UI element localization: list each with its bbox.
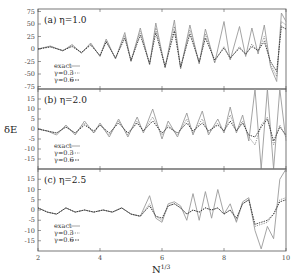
y-tick-label: -75	[25, 83, 35, 91]
three-panel-line-chart: 7550250-25-50-75 (a) η=1.0 exact γ=0.3 γ…	[0, 0, 296, 279]
panel-c-legend: exact γ=0.3 γ=0.6	[54, 222, 80, 244]
panel-a: 7550250-25-50-75 (a) η=1.0 exact γ=0.3 γ…	[25, 8, 286, 91]
series-03-line	[38, 22, 286, 77]
y-tick-label: -10	[25, 145, 35, 153]
y-tick-label: 5	[31, 196, 35, 204]
y-tick-label: 0	[31, 125, 35, 133]
panel-c: 151050-5-10-15 (c) η=2.5 exact γ=0.3 γ=0…	[25, 169, 286, 251]
y-tick-label: 25	[27, 33, 35, 41]
y-tick-label: 75	[27, 8, 35, 16]
x-tick-8: 8	[222, 254, 226, 262]
panel-a-label: (a) η=1.0	[44, 15, 87, 25]
y-tick-label: 50	[27, 20, 35, 28]
y-tick-label: -25	[25, 58, 35, 66]
x-axis-title-sup: 1/3	[161, 263, 171, 270]
y-tick-label: 10	[27, 105, 35, 113]
panel-b-legend: exact γ=0.3 γ=0.6	[54, 142, 80, 164]
y-tick-label: -5	[29, 135, 35, 143]
x-tick-4: 4	[98, 254, 102, 262]
x-axis-title-main: N	[152, 264, 161, 275]
panel-a-legend: exact γ=0.3 γ=0.6	[54, 62, 80, 84]
y-tick-label: 15	[27, 95, 35, 103]
y-axis-title: δE	[4, 124, 17, 135]
panel-b: 151050-5-10-15 (b) η=2.0 exact γ=0.3 γ=0…	[25, 89, 286, 169]
y-tick-label: 5	[31, 115, 35, 123]
y-tick-label: -15	[25, 155, 35, 163]
y-tick-label: -5	[29, 216, 35, 224]
x-axis-title: N1/3	[152, 263, 171, 275]
y-tick-label: 0	[31, 45, 35, 53]
x-tick-10: 10	[282, 254, 290, 262]
panel-c-label: (c) η=2.5	[44, 175, 86, 185]
y-tick-label: 10	[27, 186, 35, 194]
x-tick-6: 6	[160, 254, 164, 262]
y-tick-label: 15	[27, 175, 35, 183]
y-tick-label: -15	[25, 237, 35, 245]
x-tick-2: 2	[36, 254, 40, 262]
y-tick-label: -50	[25, 70, 35, 78]
y-tick-label: 0	[31, 206, 35, 214]
panel-b-label: (b) η=2.0	[44, 95, 87, 105]
y-tick-label: -10	[25, 227, 35, 235]
